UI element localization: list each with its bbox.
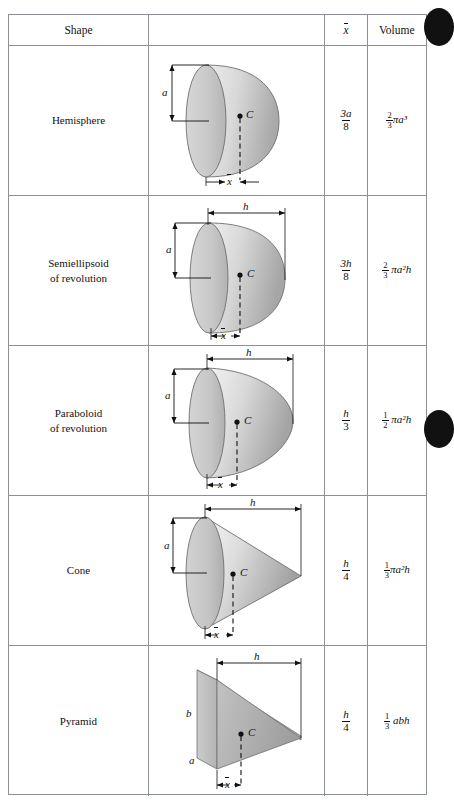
xbar-value-pyramid: h 4 [342,709,350,733]
volume-cell-semiellipsoid: 2 3 πa²h [368,196,426,345]
figure-paraboloid: a h C x [149,346,324,495]
shape-label-pyramid: Pyramid [60,714,97,729]
dim-label-xbar: x [218,478,223,490]
dim-label-a: a [166,243,172,255]
xbar-cell-hemisphere: 3a 8 [325,46,367,195]
volume-cell-cone: 1 3 πa²h [368,496,426,645]
shape-cell-pyramid: Pyramid [9,646,149,796]
shape-label-paraboloid: Paraboloid of revolution [50,406,107,436]
dim-label-a: a [164,539,170,551]
table-row-cone: Cone [9,496,426,646]
table-row-hemisphere: Hemisphere [9,46,426,196]
volume-value-hemisphere: 2 3 πa³ [386,111,407,130]
centroid-label-c: C [240,566,247,578]
header-cell-shape: Shape [9,15,149,45]
volume-value-semiellipsoid: 2 3 πa²h [382,261,411,280]
figure-cell-paraboloid: a h C x [149,346,325,495]
figure-cell-hemisphere: a C x [149,46,325,195]
shape-cell-cone: Cone [9,496,149,645]
dim-label-h: h [250,496,256,508]
xbar-cell-pyramid: h 4 [325,646,367,796]
xbar-value-paraboloid: h 3 [342,408,350,432]
figure-cell-cone: a h C x [149,496,325,645]
header-cell-figure [149,15,325,45]
xbar-cell-paraboloid: h 3 [325,346,367,495]
volume-cell-paraboloid: 1 2 πa²h [368,346,426,495]
header-label-xbar: x [343,24,348,36]
figure-cone: a h C x [149,496,324,645]
shape-label-hemisphere: Hemisphere [52,113,105,128]
header-cell-volume: Volume [368,15,426,45]
xbar-value-hemisphere: 3a 8 [339,108,352,132]
xbar-cell-cone: h 4 [325,496,367,645]
table-row-paraboloid: Paraboloid of revolution [9,346,426,496]
table-row-pyramid: Pyramid [9,646,426,796]
volume-value-paraboloid: 1 2 πa²h [382,411,411,430]
table-header-row: Shape x Volume [9,15,426,46]
figure-cell-pyramid: b a h C x [149,646,325,796]
figure-hemisphere: a C x [149,46,324,195]
header-cell-xbar: x [325,15,367,45]
shape-cell-semiellipsoid: Semiellipsoid of revolution [9,196,149,345]
shape-label-cone: Cone [67,563,90,578]
volumes-table: Shape x Volume Hemisphere [8,14,427,795]
xbar-value-cone: h 4 [342,558,350,582]
header-label-shape: Shape [64,24,92,36]
dim-label-a: a [165,389,171,401]
volume-cell-pyramid: 1 3 abh [368,646,426,796]
header-label-volume: Volume [379,24,415,36]
dim-label-a: a [162,86,168,98]
dim-label-xbar: x [225,778,230,790]
shape-label-semiellipsoid: Semiellipsoid of revolution [48,256,109,286]
dim-label-b: b [186,707,192,719]
figure-pyramid: b a h C x [149,646,324,796]
figure-cell-semiellipsoid: a h C x [149,196,325,345]
figure-semiellipsoid: a h C x [149,196,324,345]
dim-label-xbar: x [221,329,226,341]
dim-label-h: h [246,346,252,358]
volume-value-pyramid: 1 3 abh [384,712,410,731]
dim-label-a: a [189,754,195,766]
table-row-semiellipsoid: Semiellipsoid of revolution [9,196,426,346]
xbar-value-semiellipsoid: 3h 8 [339,258,352,282]
page-edge-marker-middle [424,410,454,448]
centroid-label-c: C [247,267,254,279]
dim-label-xbar: x [227,175,232,187]
xbar-cell-semiellipsoid: 3h 8 [325,196,367,345]
dim-label-h: h [254,650,260,662]
volume-cell-hemisphere: 2 3 πa³ [368,46,426,195]
shape-cell-hemisphere: Hemisphere [9,46,149,195]
centroid-label-c: C [248,726,255,738]
volume-value-cone: 1 3 πa²h [384,561,410,580]
page-edge-marker-top [424,8,454,46]
centroid-label-c: C [246,108,253,120]
shape-cell-paraboloid: Paraboloid of revolution [9,346,149,495]
dim-label-xbar: x [214,628,219,640]
centroid-label-c: C [244,414,251,426]
dim-label-h: h [243,200,249,212]
